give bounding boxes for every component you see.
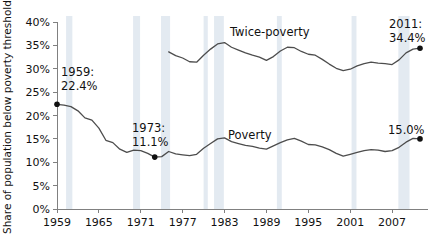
x-ticks-group: 195919651971197719831989199520012007 — [43, 209, 406, 229]
chart-canvas: 0%5%10%15%20%25%30%35%40% 19591965197119… — [0, 0, 444, 246]
recession-band — [277, 16, 282, 209]
recession-band — [352, 16, 357, 209]
x-tick-label: 1995 — [294, 216, 322, 229]
y-tick-label: 25% — [26, 86, 50, 99]
annotation-value-a1973: 11.1% — [132, 135, 169, 149]
x-tick-label: 2001 — [336, 216, 364, 229]
y-tick-label: 0% — [33, 203, 50, 216]
series-label-twice-poverty: Twice-poverty — [229, 25, 310, 39]
x-tick-label: 1989 — [252, 216, 280, 229]
annotation-year-a2011_twice: 2011: — [389, 17, 422, 31]
poverty-rate-chart: 0%5%10%15%20%25%30%35%40% 19591965197119… — [0, 0, 444, 246]
y-axis-title: Share of population below poverty thresh… — [1, 0, 13, 234]
data-point-marker-a2011_pov — [417, 136, 423, 142]
series-label-poverty: Poverty — [228, 128, 272, 142]
x-tick-label: 1977 — [169, 216, 197, 229]
y-ticks-group: 0%5%10%15%20%25%30%35%40% — [26, 16, 57, 216]
data-point-marker-a2011_twice — [417, 45, 423, 51]
x-tick-label: 1959 — [43, 216, 71, 229]
axes-group — [57, 22, 428, 209]
x-tick-label: 1971 — [127, 216, 155, 229]
annotation-year-a1973: 1973: — [132, 121, 165, 135]
y-tick-label: 30% — [26, 63, 50, 76]
recession-band — [66, 16, 72, 209]
data-point-marker-a1959 — [54, 101, 60, 107]
y-tick-label: 5% — [33, 180, 50, 193]
recession-bands-group — [66, 16, 409, 209]
y-tick-label: 15% — [26, 133, 50, 146]
data-point-marker-a1973 — [152, 154, 158, 160]
annotation-value-a2011_twice: 34.4% — [389, 31, 426, 45]
annotation-value-a1959: 22.4% — [61, 79, 98, 93]
annotation-year-a1959: 1959: — [61, 65, 94, 79]
y-tick-label: 40% — [26, 16, 50, 29]
recession-band — [133, 16, 140, 209]
x-tick-label: 2007 — [378, 216, 406, 229]
y-tick-label: 35% — [26, 39, 50, 52]
series-inline-labels-group: Twice-povertyPoverty — [228, 25, 310, 142]
y-tick-label: 10% — [26, 156, 50, 169]
annotation-value-a2011_pov: 15.0% — [388, 123, 425, 137]
x-tick-label: 1965 — [85, 216, 113, 229]
recession-band — [204, 16, 208, 209]
x-tick-label: 1983 — [211, 216, 239, 229]
y-tick-label: 20% — [26, 110, 50, 123]
recession-band — [161, 16, 170, 209]
